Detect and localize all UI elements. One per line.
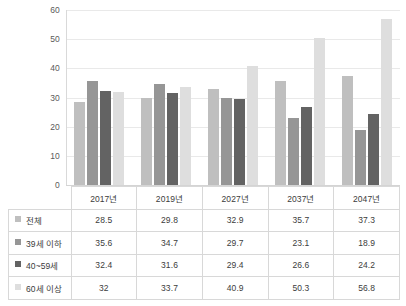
cell-39세 이하-2017년: 35.6 xyxy=(71,232,137,255)
table-row: 39세 이하35.634.729.723.118.9 xyxy=(9,232,400,255)
bar-전체-2027년 xyxy=(208,89,219,185)
cell-60세 이상-2019년: 33.7 xyxy=(137,277,203,300)
legend-swatch-icon xyxy=(15,239,21,245)
cell-40~59세-2047년: 24.2 xyxy=(334,254,400,277)
cell-전체-2047년: 37.3 xyxy=(334,209,400,232)
column-header-2047년: 2047년 xyxy=(334,187,400,210)
bar-전체-2037년 xyxy=(275,81,286,185)
column-header-2017년: 2017년 xyxy=(71,187,137,210)
y-tick-label-60: 60 xyxy=(36,5,60,15)
column-header-2019년: 2019년 xyxy=(137,187,203,210)
cell-전체-2037년: 35.7 xyxy=(268,209,334,232)
y-tick-label-10: 10 xyxy=(36,151,60,161)
legend-item-60세 이상[interactable]: 60세 이상 xyxy=(9,277,72,300)
legend-item-전체[interactable]: 전체 xyxy=(9,209,72,232)
cell-39세 이하-2037년: 23.1 xyxy=(268,232,334,255)
legend-label: 전체 xyxy=(26,216,42,226)
data-table: 2017년2019년2027년2037년2047년전체28.529.832.93… xyxy=(8,186,400,300)
plot-area: 0102030405060 xyxy=(0,0,406,190)
y-tick-label-40: 40 xyxy=(36,63,60,73)
bar-전체-2019년 xyxy=(141,98,152,185)
cell-39세 이하-2019년: 34.7 xyxy=(137,232,203,255)
bar-전체-2047년 xyxy=(342,76,353,185)
bar-group-2037년 xyxy=(266,10,333,185)
y-tick-label-50: 50 xyxy=(36,34,60,44)
table-header-row: 2017년2019년2027년2037년2047년 xyxy=(9,187,400,210)
cell-39세 이하-2047년: 18.9 xyxy=(334,232,400,255)
cell-60세 이상-2027년: 40.9 xyxy=(202,277,268,300)
bar-60세 이상-2047년 xyxy=(381,19,392,185)
bar-groups xyxy=(66,10,400,185)
bar-전체-2017년 xyxy=(74,102,85,185)
bar-39세 이하-2047년 xyxy=(355,130,366,185)
legend-label: 60세 이상 xyxy=(26,284,62,294)
column-header-2027년: 2027년 xyxy=(202,187,268,210)
cell-전체-2017년: 28.5 xyxy=(71,209,137,232)
cell-60세 이상-2037년: 50.3 xyxy=(268,277,334,300)
table-row: 전체28.529.832.935.737.3 xyxy=(9,209,400,232)
cell-전체-2019년: 29.8 xyxy=(137,209,203,232)
bar-39세 이하-2017년 xyxy=(87,81,98,185)
cell-39세 이하-2027년: 29.7 xyxy=(202,232,268,255)
bar-40~59세-2047년 xyxy=(368,114,379,185)
bar-60세 이상-2017년 xyxy=(113,92,124,185)
bar-group-2027년 xyxy=(200,10,267,185)
table-row: 60세 이상3233.740.950.356.8 xyxy=(9,277,400,300)
legend-item-39세 이하[interactable]: 39세 이하 xyxy=(9,232,72,255)
bar-group-2017년 xyxy=(66,10,133,185)
bar-40~59세-2019년 xyxy=(167,93,178,185)
legend-label: 39세 이하 xyxy=(26,239,62,249)
cell-60세 이상-2047년: 56.8 xyxy=(334,277,400,300)
bar-60세 이상-2037년 xyxy=(314,38,325,185)
data-table-body: 2017년2019년2027년2037년2047년전체28.529.832.93… xyxy=(9,187,400,300)
table-corner-cell xyxy=(9,187,72,210)
bar-group-2047년 xyxy=(333,10,400,185)
legend-label: 40~59세 xyxy=(26,261,58,271)
bar-39세 이하-2019년 xyxy=(154,84,165,185)
bar-60세 이상-2019년 xyxy=(180,87,191,185)
y-tick-label-20: 20 xyxy=(36,122,60,132)
chart-container: 0102030405060 2017년2019년2027년2037년2047년전… xyxy=(0,0,406,306)
cell-40~59세-2019년: 31.6 xyxy=(137,254,203,277)
legend-item-40~59세[interactable]: 40~59세 xyxy=(9,254,72,277)
cell-40~59세-2017년: 32.4 xyxy=(71,254,137,277)
bar-40~59세-2037년 xyxy=(301,107,312,185)
legend-swatch-icon xyxy=(15,216,21,222)
legend-swatch-icon xyxy=(15,261,21,267)
column-header-2037년: 2037년 xyxy=(268,187,334,210)
table-row: 40~59세32.431.629.426.624.2 xyxy=(9,254,400,277)
cell-40~59세-2027년: 29.4 xyxy=(202,254,268,277)
y-axis-tick-labels: 0102030405060 xyxy=(36,0,60,190)
y-tick-label-30: 30 xyxy=(36,93,60,103)
bar-40~59세-2017년 xyxy=(100,91,111,186)
cell-60세 이상-2017년: 32 xyxy=(71,277,137,300)
cell-40~59세-2037년: 26.6 xyxy=(268,254,334,277)
bar-39세 이하-2027년 xyxy=(221,98,232,185)
bar-39세 이하-2037년 xyxy=(288,118,299,185)
bar-group-2019년 xyxy=(133,10,200,185)
bar-60세 이상-2027년 xyxy=(247,66,258,185)
legend-swatch-icon xyxy=(15,284,21,290)
bar-40~59세-2027년 xyxy=(234,99,245,185)
cell-전체-2027년: 32.9 xyxy=(202,209,268,232)
